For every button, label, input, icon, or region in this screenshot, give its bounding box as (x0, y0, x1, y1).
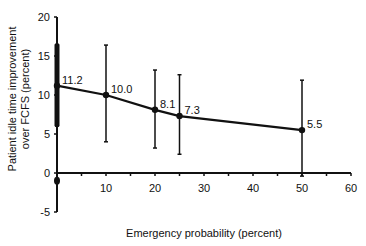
y-tick-label: 0 (44, 167, 50, 179)
data-point (176, 113, 182, 119)
y-tick-label: 5 (44, 128, 50, 140)
y-axis-title-line2: over FCFS (percent) (19, 49, 31, 149)
data-point (299, 127, 305, 133)
data-label: 7.3 (185, 104, 200, 116)
y-tick-label: -5 (40, 206, 50, 218)
data-label: 10.0 (111, 83, 132, 95)
data-labels: 11.210.08.17.35.5 (62, 74, 322, 130)
data-point (54, 82, 60, 88)
x-axis-title: Emergency probability (percent) (126, 227, 282, 239)
y-axis: -505101520 (38, 11, 57, 218)
x-tick-label: 30 (198, 182, 210, 194)
data-label: 8.1 (160, 98, 175, 110)
x-tick-label: 20 (149, 182, 161, 194)
data-point (103, 92, 109, 98)
x-tick-label: 10 (100, 182, 112, 194)
x-tick-label: 50 (296, 182, 308, 194)
data-point (152, 107, 158, 113)
data-label: 11.2 (62, 74, 83, 86)
x-tick-label: 40 (247, 182, 259, 194)
y-tick-label: 10 (38, 89, 50, 101)
y-tick-label: 20 (38, 11, 50, 23)
line-chart: -505101520 102030405060 11.210.08.17.35.… (0, 0, 366, 246)
y-tick-label: 15 (38, 50, 50, 62)
x-axis: 102030405060 (57, 173, 357, 194)
y-axis-title-line1: Patient idle time improvement (6, 27, 18, 172)
data-label: 5.5 (307, 118, 322, 130)
axis-marker (54, 177, 60, 185)
x-tick-label: 60 (345, 182, 357, 194)
